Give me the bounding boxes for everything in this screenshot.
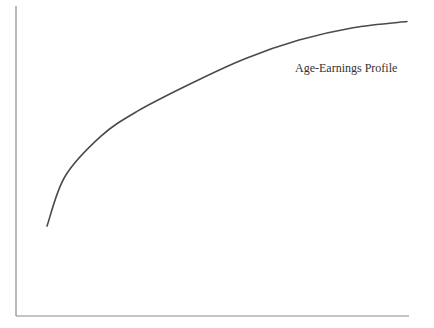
curve-label: Age-Earnings Profile	[295, 61, 397, 75]
age-earnings-chart: Age-Earnings Profile	[0, 0, 434, 328]
age-earnings-curve	[47, 22, 407, 227]
